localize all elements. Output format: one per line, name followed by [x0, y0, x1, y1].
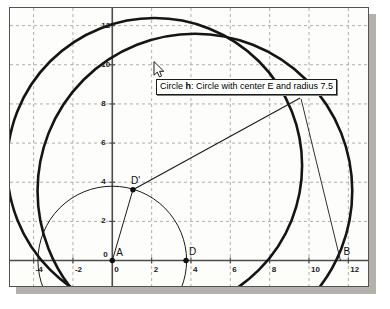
- x-axis-tick-label: 0: [114, 266, 118, 274]
- point-label-D: D: [189, 247, 196, 257]
- point-A[interactable]: [110, 258, 115, 263]
- x-axis-tick-label: 8: [272, 266, 276, 274]
- point-label-D-prime: D': [131, 176, 140, 186]
- tooltip-suffix: : Circle with center E and radius 7.5: [191, 81, 333, 91]
- x-axis-tick-label: -2: [75, 266, 82, 274]
- tooltip-prefix: Circle: [160, 81, 186, 91]
- point-D-prime[interactable]: [130, 187, 135, 192]
- y-axis-tick-label: 10: [101, 61, 110, 69]
- point-D[interactable]: [183, 258, 188, 263]
- geometry-app-root: Save Point DCirclethe center of thecircl…: [0, 0, 390, 309]
- x-axis-tick-label: 10: [311, 266, 320, 274]
- object-tooltip: Circle h: Circle with center E and radiu…: [156, 79, 337, 95]
- x-axis-tick-label: 6: [232, 266, 236, 274]
- y-axis-tick-label: 2: [101, 217, 105, 225]
- y-axis-tick-label: 8: [101, 100, 105, 108]
- y-axis-tick-label: 12: [101, 22, 110, 30]
- y-axis-tick-label: 6: [101, 139, 105, 147]
- y-axis-tick-label: 0: [103, 251, 107, 259]
- x-axis-tick-label: -4: [36, 266, 43, 274]
- x-axis-tick-label: 2: [154, 266, 158, 274]
- geometry-canvas[interactable]: [10, 8, 368, 286]
- point-label-A: A: [116, 248, 123, 258]
- point-label-B: B: [343, 247, 350, 257]
- x-axis-tick-label: 4: [193, 266, 197, 274]
- y-axis-tick-label: 4: [101, 178, 105, 186]
- graphics-view-panel[interactable]: -4-2024681012024681012ADD'BF Circle h: C…: [9, 7, 369, 287]
- x-axis-tick-label: 12: [350, 266, 359, 274]
